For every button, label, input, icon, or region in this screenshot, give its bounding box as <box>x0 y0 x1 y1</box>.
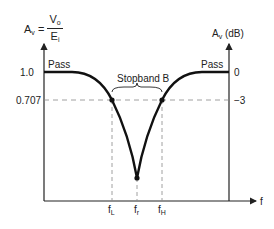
notch-filter-diagram: Av = Vo Ei Av (dB) 1.0 0.707 0 −3 Pass P… <box>0 0 274 229</box>
right-axis-label: Av (dB) <box>212 29 244 40</box>
fl-point <box>109 97 114 102</box>
fr-label: fr <box>134 205 139 216</box>
fraction-num: Vo <box>48 14 62 26</box>
fr-point <box>134 175 139 180</box>
left-axis-label: Av = <box>24 24 44 36</box>
tick-minus3db: −3 <box>234 96 245 106</box>
fh-label: fH <box>158 205 166 216</box>
response-curve <box>44 72 229 178</box>
fraction-den: Ei <box>48 31 62 43</box>
fraction-bar <box>47 28 63 29</box>
pass-left: Pass <box>48 60 70 70</box>
stopband-brace <box>112 83 162 92</box>
stopband-label: Stopband B <box>117 74 169 84</box>
fh-point <box>159 97 164 102</box>
tick-1-0: 1.0 <box>20 68 34 78</box>
x-axis-label: f <box>260 197 263 207</box>
pass-right: Pass <box>201 60 223 70</box>
tick-0db: 0 <box>234 68 240 78</box>
tick-0-707: 0.707 <box>16 96 41 106</box>
fl-label: fL <box>108 205 115 216</box>
